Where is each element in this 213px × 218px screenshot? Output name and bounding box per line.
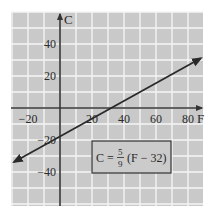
equation-denominator: 9 bbox=[118, 159, 123, 169]
x-tick-label: 80 bbox=[182, 112, 194, 126]
equation-rhs: (F − 32) bbox=[127, 151, 166, 165]
chart-canvas: C F −20204060804020−20−40 C = 5 9 (F − 3… bbox=[0, 0, 213, 218]
equation-lhs: C = bbox=[96, 151, 114, 165]
y-tick-label: 40 bbox=[44, 37, 56, 51]
y-tick-label: −40 bbox=[37, 165, 56, 179]
equation-box: C = 5 9 (F − 32) bbox=[92, 141, 171, 173]
y-axis-label: C bbox=[64, 12, 73, 27]
equation-numerator: 5 bbox=[118, 147, 123, 157]
x-tick-label: 40 bbox=[118, 112, 130, 126]
x-tick-label: 60 bbox=[150, 112, 162, 126]
x-axis-label: F bbox=[197, 111, 204, 126]
y-tick-label: 20 bbox=[44, 69, 56, 83]
x-tick-label: −20 bbox=[19, 112, 38, 126]
